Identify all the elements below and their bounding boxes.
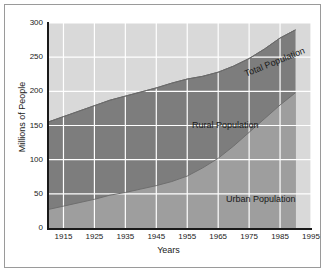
- y-axis-title: Millions of People: [15, 57, 29, 177]
- series-label-rural: Rural Population: [192, 120, 259, 130]
- y-axis-title-wrap: Millions of People: [0, 110, 82, 124]
- x-tick-label: 1995: [291, 232, 327, 242]
- figure-frame: Total Population Rural Population Urban …: [4, 4, 321, 268]
- x-tick-labels: 191519251935194519551965197519851995: [5, 232, 327, 244]
- y-axis-line: [47, 22, 49, 229]
- y-tick-label: 50: [5, 189, 43, 198]
- x-axis-line: [47, 228, 312, 230]
- x-axis-title: Years: [5, 245, 327, 255]
- plot-area: Total Population Rural Population Urban …: [48, 23, 311, 228]
- chart-figure: Total Population Rural Population Urban …: [0, 0, 327, 274]
- y-tick-label: 0: [5, 223, 43, 232]
- series-label-urban: Urban Population: [226, 194, 296, 204]
- y-tick-label: 300: [5, 18, 43, 27]
